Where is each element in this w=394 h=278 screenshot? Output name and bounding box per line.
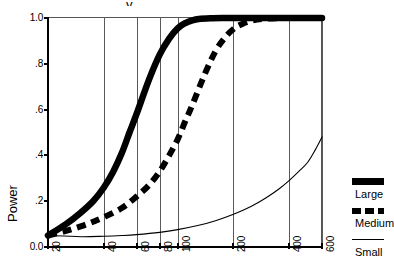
legend-item-large[interactable]: Large xyxy=(352,176,392,205)
thick-dashed-swatch xyxy=(352,208,384,214)
y-tick-label-.8: .8 xyxy=(35,59,43,69)
legend-item-medium[interactable]: Medium xyxy=(352,205,392,234)
plot-curves xyxy=(48,18,322,247)
y-tick-label-0.0: 0.0 xyxy=(30,242,43,252)
x-tick-label-600: 600 xyxy=(326,236,336,252)
y-axis-title: Power xyxy=(5,175,20,233)
legend-label-medium: Medium xyxy=(355,217,394,229)
legend-label-small: Small xyxy=(355,246,383,258)
y-tick-label-.4: .4 xyxy=(35,150,43,160)
chart-legend: LargeMediumSmall xyxy=(352,176,392,263)
legend-label-large: Large xyxy=(355,188,383,200)
y-tick-label-.6: .6 xyxy=(35,105,43,115)
gridline-x-600 xyxy=(322,18,323,247)
curves-svg xyxy=(48,18,322,247)
cropped-title-remnant: y xyxy=(126,0,134,6)
y-tick-label-1.0: 1.0 xyxy=(30,13,43,23)
curve-small xyxy=(48,137,322,237)
legend-item-small[interactable]: Small xyxy=(352,234,392,263)
thin-solid-swatch xyxy=(352,239,384,240)
thick-solid-swatch xyxy=(352,178,384,185)
y-tick-label-.2: .2 xyxy=(35,196,43,206)
